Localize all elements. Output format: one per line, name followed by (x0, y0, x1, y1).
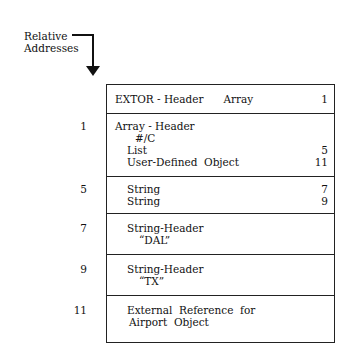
row-text: String-Header (107, 222, 334, 234)
row-text: External Reference for (107, 304, 334, 316)
table-row: EXTOR - Header Array1 (107, 85, 334, 113)
row-text: “DAL” (107, 234, 334, 246)
pointer-value: 9 (321, 195, 328, 207)
arrow-vertical (92, 34, 94, 68)
relative-address: 7 (47, 222, 87, 234)
table-row: 5String7String9 (107, 176, 334, 213)
row-text: List5 (107, 144, 334, 156)
legend-line-2: Addresses (24, 42, 79, 54)
arrow-down-icon (86, 66, 100, 76)
row-text: “TX” (107, 275, 334, 287)
relative-address: 5 (47, 183, 87, 195)
row-text: Airport Object (107, 316, 334, 328)
row-text: #/C (107, 132, 334, 144)
row-text: String-Header (107, 263, 334, 275)
table-row: 7String-Header“DAL” (107, 213, 334, 254)
relative-address: 11 (47, 304, 87, 316)
relative-address: 9 (47, 263, 87, 275)
table-row: 11External Reference forAirport Object (107, 295, 334, 342)
arrow-horizontal (72, 34, 94, 36)
row-text: String9 (107, 195, 334, 207)
table-row: 1Array - Header#/CList5User-Defined Obje… (107, 113, 334, 176)
pointer-value: 11 (315, 156, 328, 168)
pointer-value: 7 (321, 183, 328, 195)
row-text: Array - Header (107, 120, 334, 132)
legend-line-1: Relative (24, 30, 79, 42)
row-text: String7 (107, 183, 334, 195)
pointer-value: 5 (321, 144, 328, 156)
row-text: EXTOR - Header Array1 (107, 93, 334, 105)
relative-address: 1 (47, 120, 87, 132)
memory-table: EXTOR - Header Array11Array - Header#/CL… (106, 84, 335, 343)
row-text: User-Defined Object11 (107, 156, 334, 168)
pointer-value: 1 (321, 93, 328, 105)
legend-label: Relative Addresses (24, 30, 79, 54)
table-row: 9String-Header“TX” (107, 254, 334, 295)
